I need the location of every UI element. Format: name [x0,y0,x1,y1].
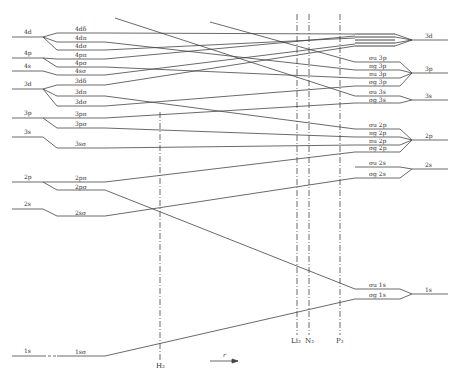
axis-label-r: r [223,352,226,358]
ua-level-label: 3s [24,129,31,135]
sa-mo-label: σg 1s [369,292,386,298]
r-axis-arrow [210,359,238,363]
sa-mo-label: σg 3p [369,79,387,85]
sa-mo-label: πg 2p [369,130,386,136]
marker-label-li2: Li₂ [291,338,301,345]
sa-level-label: 3d [425,33,433,39]
ua-level-label: 3p [24,110,32,116]
ua-mo-label: 2pπ [75,175,87,181]
ua-mo-label: 2sσ [75,210,86,216]
sa-mo-label: σu 1s [369,282,386,288]
ua-mo-label: 3sσ [75,141,86,147]
ua-mo-label: 2pσ [75,184,87,190]
sa-mo-label: σg 2p [369,145,387,151]
ua-mo-label: 3pπ [75,111,87,117]
marker-label-n2: N₂ [305,338,314,345]
marker-label-p2: P₂ [336,338,344,345]
sa-mo-label: σu 2s [369,160,386,166]
ua-mo-label: 3dπ [75,89,87,95]
ua-mo-label: 4sσ [75,68,86,74]
ua-mo-label: 3dσ [75,99,87,105]
ua-mo-label: 4dσ [75,43,87,49]
sa-mo-label: σu 3s [369,89,386,95]
sa-level-label: 3s [425,93,432,99]
sa-mo-label: σu 2p [369,122,387,128]
ua-mo-label: 1sσ [75,349,86,355]
ua-mo-label: 4pπ [75,52,87,58]
sa-level-label: 2s [425,162,432,168]
ua-level-label: 4d [24,29,32,35]
sa-level-label: 2p [425,133,433,139]
sa-mo-label: σu 3p [369,55,387,61]
ua-level-label: 4p [24,50,32,56]
ua-mo-label: 3dδ [75,78,86,84]
ua-level-label: 1s [24,348,31,354]
ua-mo-label: 3pσ [75,121,87,127]
sa-mo-label: σg 3s [369,97,386,103]
sa-level-label: 1s [425,287,432,293]
ua-mo-label: 4pσ [75,60,87,66]
ua-mo-label: 4dδ [75,26,86,32]
sa-mo-label: σg 2s [369,171,386,177]
ua-level-label: 2s [24,201,31,207]
ua-level-label: 3d [24,81,32,87]
sa-level-label: 3p [425,66,433,72]
ua-mo-label: 4dπ [75,35,87,41]
sa-mo-label: πu 3p [369,71,386,77]
ua-level-label: 4s [24,63,31,69]
ua-level-label: 2p [24,174,32,180]
marker-label-h2: H₂ [156,363,165,370]
sa-mo-label: πg 3p [369,63,386,69]
